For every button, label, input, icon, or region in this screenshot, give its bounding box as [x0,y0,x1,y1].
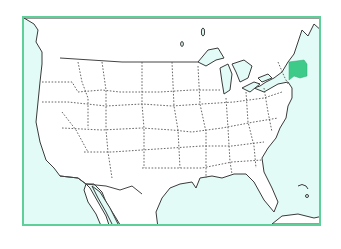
bahamas [298,185,308,190]
small-island [181,42,184,47]
highlighted-state-massachusetts[interactable] [289,60,307,80]
isle-royale [201,28,204,36]
us-map [24,18,319,224]
land-mass [24,18,319,224]
bahamas-islet [306,195,309,198]
map-frame [22,16,321,226]
cuba [272,214,319,224]
